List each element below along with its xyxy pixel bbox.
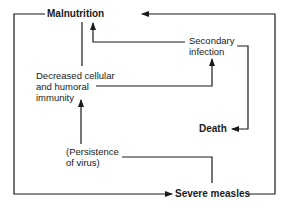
node-severe-measles: Severe measles [175,188,250,199]
connector-lines [0,0,285,208]
node-immunity-line1: Decreased cellular [36,70,115,81]
node-secondary-infection-line1: Secondary [189,35,234,46]
node-persistence-line2: of virus) [66,157,100,168]
node-death: Death [199,123,227,134]
node-malnutrition: Malnutrition [47,8,104,19]
node-secondary-infection-line2: infection [189,46,224,57]
node-immunity-line3: immunity [36,92,74,103]
node-immunity-line2: and humoral [36,81,89,92]
node-persistence-line1: (Persistence [66,146,119,157]
